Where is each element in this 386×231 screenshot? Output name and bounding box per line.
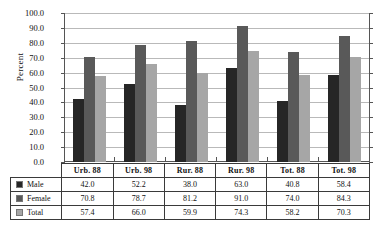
table-column-header: Rur. 98 — [216, 164, 267, 178]
legend-item-total: Total — [11, 206, 62, 220]
table-column-header: Urb. 98 — [113, 164, 164, 178]
table-cell: 58.4 — [318, 178, 369, 192]
table-column-header: Tot. 88 — [267, 164, 318, 178]
bar-male — [277, 101, 288, 162]
table-cell: 38.0 — [164, 178, 215, 192]
y-axis-tick-label: 80.0 — [0, 38, 44, 48]
bar-group — [115, 13, 166, 162]
y-axis-tick-label: 60.0 — [0, 68, 44, 78]
table-cell: 58.2 — [267, 206, 318, 220]
table-header-row: Urb. 88Urb. 98Rur. 88Rur. 98Tot. 88Tot. … — [11, 164, 370, 178]
table-cell: 74.0 — [267, 192, 318, 206]
table-cell: 70.3 — [318, 206, 369, 220]
table-cell: 66.0 — [113, 206, 164, 220]
table-cell: 84.3 — [318, 192, 369, 206]
bar-male — [73, 99, 84, 162]
bar-female — [237, 26, 248, 162]
table-column-header: Urb. 88 — [62, 164, 113, 178]
bar-male — [226, 68, 237, 162]
bar-total — [350, 57, 361, 162]
bar-total — [146, 64, 157, 162]
table-row: Female70.878.781.291.074.084.3 — [11, 192, 370, 206]
y-axis-tick-label: 50.0 — [0, 83, 44, 93]
y-axis-tick-label: 20.0 — [0, 127, 44, 137]
bar-total — [197, 73, 208, 162]
plot-area: 100.090.080.070.060.050.040.030.020.010.… — [64, 13, 370, 162]
bar-male — [175, 105, 186, 162]
y-axis-tick-label: 40.0 — [0, 97, 44, 107]
bar-group — [64, 13, 115, 162]
table-corner-cell — [11, 164, 62, 178]
legend-swatch-icon — [16, 181, 23, 188]
table-row: Male42.052.238.063.040.858.4 — [11, 178, 370, 192]
table-cell: 81.2 — [164, 192, 215, 206]
legend-item-female: Female — [11, 192, 62, 206]
legend-label: Female — [27, 194, 51, 203]
y-axis-tick-label: 90.0 — [0, 23, 44, 33]
bar-group — [268, 13, 319, 162]
table-cell: 40.8 — [267, 178, 318, 192]
y-axis-tick-label: 70.0 — [0, 53, 44, 63]
bar-group — [319, 13, 370, 162]
y-axis-tick-label: 30.0 — [0, 112, 44, 122]
bar-female — [135, 45, 146, 162]
bar-groups — [64, 13, 370, 162]
table-cell: 91.0 — [216, 192, 267, 206]
bar-male — [124, 84, 135, 162]
chart-figure: Percent 100.090.080.070.060.050.040.030.… — [0, 0, 386, 231]
table-cell: 70.8 — [62, 192, 113, 206]
legend-swatch-icon — [16, 195, 23, 202]
bar-female — [288, 52, 299, 162]
table-column-header: Tot. 98 — [318, 164, 369, 178]
bar-total — [95, 76, 106, 162]
table-cell: 42.0 — [62, 178, 113, 192]
bar-female — [186, 41, 197, 162]
table-column-header: Rur. 88 — [164, 164, 215, 178]
y-axis-tick-label: 10.0 — [0, 142, 44, 152]
table-header: Urb. 88Urb. 98Rur. 88Rur. 98Tot. 88Tot. … — [11, 164, 370, 178]
bar-female — [84, 57, 95, 162]
legend-label: Male — [27, 180, 43, 189]
table-cell: 59.9 — [164, 206, 215, 220]
legend-label: Total — [27, 208, 43, 217]
bar-group — [217, 13, 268, 162]
y-axis-tick-label: 100.0 — [0, 8, 44, 18]
bar-female — [339, 36, 350, 162]
table-cell: 74.3 — [216, 206, 267, 220]
data-table: Urb. 88Urb. 98Rur. 88Rur. 98Tot. 88Tot. … — [10, 163, 370, 220]
legend-swatch-icon — [16, 209, 23, 216]
bar-group — [166, 13, 217, 162]
table-row: Total57.466.059.974.358.270.3 — [11, 206, 370, 220]
table-body: Male42.052.238.063.040.858.4Female70.878… — [11, 178, 370, 220]
bar-male — [328, 75, 339, 162]
table-cell: 57.4 — [62, 206, 113, 220]
bar-total — [299, 75, 310, 162]
table-cell: 52.2 — [113, 178, 164, 192]
table-cell: 78.7 — [113, 192, 164, 206]
bar-total — [248, 51, 259, 162]
table-cell: 63.0 — [216, 178, 267, 192]
legend-item-male: Male — [11, 178, 62, 192]
